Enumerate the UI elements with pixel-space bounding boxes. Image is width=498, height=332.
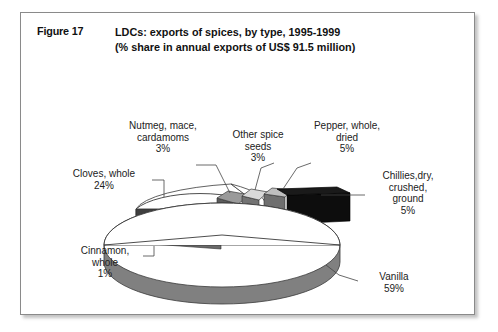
pie-label-cinnamon: Cinnamon, whole 1%: [65, 245, 145, 280]
pie-label-nutmeg: Nutmeg, mace, cardamoms 3%: [117, 120, 209, 155]
pie-label-other-seeds: Other spice seeds 3%: [219, 129, 297, 164]
pie-label-cloves: Cloves, whole 24%: [57, 168, 151, 191]
pie-chart: Nutmeg, mace, cardamoms 3% Other spice s…: [21, 13, 476, 316]
figure-frame: Figure 17 LDCs: exports of spices, by ty…: [20, 12, 475, 315]
pie-label-vanilla: Vanilla 59%: [361, 271, 427, 294]
pie-label-pepper: Pepper, whole, dried 5%: [305, 120, 389, 155]
leader-line-pepper: [283, 163, 311, 189]
leader-line-other-seeds: [255, 163, 274, 190]
pie-label-chillies: Chillies,dry, crushed, ground 5%: [369, 170, 447, 216]
